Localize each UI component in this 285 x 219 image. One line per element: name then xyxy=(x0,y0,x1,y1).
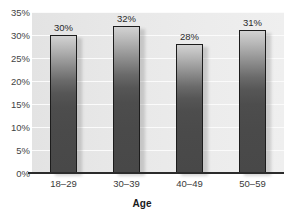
bar-value-label: 32% xyxy=(104,13,150,24)
x-axis-tick-label: 30–39 xyxy=(92,178,162,189)
chart-title xyxy=(0,0,284,5)
bar[interactable] xyxy=(239,30,266,173)
y-axis-tick-label: 20% xyxy=(0,76,30,87)
x-axis-tick-label: 50–59 xyxy=(218,178,285,189)
bar-group: 30% xyxy=(50,35,77,173)
y-axis-tick-label: 25% xyxy=(0,53,30,64)
bar-chart-figure: 30%32%28%31% 35%30%25%20%15%10%5%0% Age … xyxy=(0,0,284,219)
bar-value-label: 31% xyxy=(230,17,276,28)
y-axis-tick-label: 30% xyxy=(0,30,30,41)
bar-value-label: 30% xyxy=(41,22,87,33)
bar-value-label: 28% xyxy=(167,31,213,42)
bar-group: 28% xyxy=(176,44,203,173)
x-axis-tick-label: 18–29 xyxy=(29,178,99,189)
bar[interactable] xyxy=(176,44,203,173)
x-axis-line xyxy=(28,172,284,174)
x-axis-title: Age xyxy=(0,198,284,209)
y-axis-tick-label: 10% xyxy=(0,122,30,133)
y-axis-tick-label: 5% xyxy=(0,145,30,156)
y-axis-tick-label: 0% xyxy=(0,168,30,179)
gridline xyxy=(32,12,284,13)
bar-group: 32% xyxy=(113,26,140,173)
bar[interactable] xyxy=(50,35,77,173)
bar[interactable] xyxy=(113,26,140,173)
y-axis: 35%30%25%20%15%10%5%0% xyxy=(0,12,30,173)
bar-group: 31% xyxy=(239,30,266,173)
x-axis-tick-label: 40–49 xyxy=(155,178,225,189)
y-axis-tick-label: 35% xyxy=(0,7,30,18)
y-axis-tick-label: 15% xyxy=(0,99,30,110)
plot-area: 30%32%28%31% xyxy=(32,12,284,173)
